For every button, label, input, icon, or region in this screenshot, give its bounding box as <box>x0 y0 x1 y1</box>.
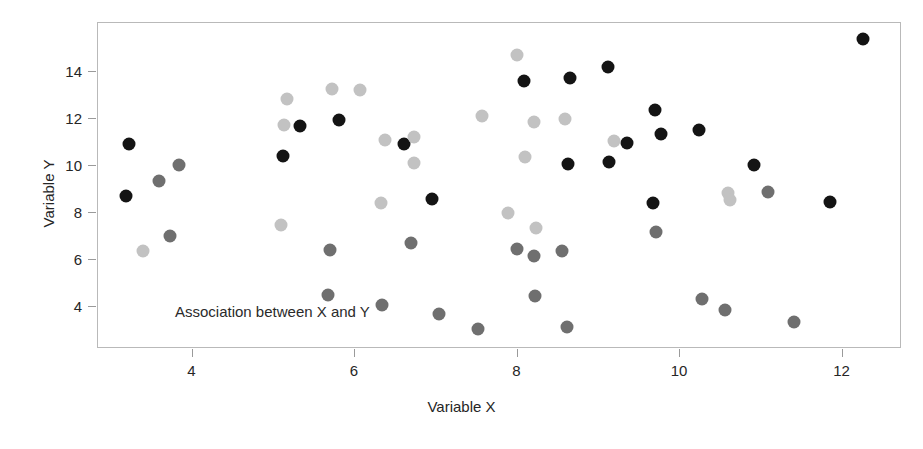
y-tick-label: 14 <box>65 63 82 80</box>
x-tick-mark <box>354 349 355 357</box>
y-tick-mark <box>88 212 96 213</box>
y-tick-label: 12 <box>65 110 82 127</box>
x-tick-label: 4 <box>187 362 195 379</box>
plot-annotation: Association between X and Y <box>175 303 370 320</box>
y-tick-label: 10 <box>65 157 82 174</box>
y-tick-mark <box>88 71 96 72</box>
x-tick-label: 10 <box>671 362 688 379</box>
x-tick-label: 6 <box>350 362 358 379</box>
y-tick-label: 6 <box>74 251 82 268</box>
y-tick-mark <box>88 118 96 119</box>
x-tick-mark <box>842 349 843 357</box>
x-tick-label: 8 <box>512 362 520 379</box>
x-tick-mark <box>192 349 193 357</box>
x-axis-label: Variable X <box>0 398 923 415</box>
y-tick-mark <box>88 165 96 166</box>
y-tick-mark <box>88 306 96 307</box>
x-tick-mark <box>679 349 680 357</box>
y-tick-label: 4 <box>74 298 82 315</box>
x-tick-label: 12 <box>833 362 850 379</box>
scatter-plot-figure: 4681012 468101214 Association between X … <box>0 0 923 449</box>
x-tick-mark <box>517 349 518 357</box>
y-tick-mark <box>88 259 96 260</box>
y-tick-label: 8 <box>74 204 82 221</box>
y-axis-label: Variable Y <box>40 124 57 264</box>
plot-area-frame <box>97 22 901 348</box>
